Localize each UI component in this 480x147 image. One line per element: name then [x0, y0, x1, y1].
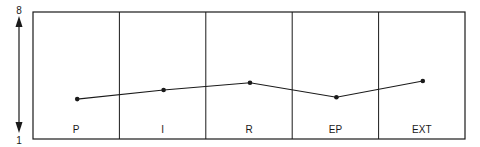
category-label-ext: EXT — [412, 124, 431, 135]
chart-frame — [33, 12, 465, 139]
category-labels: PIREPEXT — [73, 124, 432, 135]
column-dividers — [119, 12, 378, 139]
y-axis-min-label: 1 — [16, 135, 22, 146]
data-point-ep — [334, 95, 339, 100]
data-point-r — [248, 80, 253, 85]
category-label-p: P — [73, 124, 80, 135]
category-label-r: R — [245, 124, 252, 135]
data-point-p — [75, 97, 80, 102]
y-axis-max-label: 8 — [16, 5, 22, 16]
category-label-ep: EP — [329, 124, 343, 135]
data-point-i — [161, 88, 166, 93]
data-point-ext — [421, 79, 426, 84]
category-label-i: I — [161, 124, 164, 135]
profile-chart: 8 1 PIREPEXT — [0, 0, 480, 147]
y-axis-arrow-icon — [16, 16, 23, 133]
